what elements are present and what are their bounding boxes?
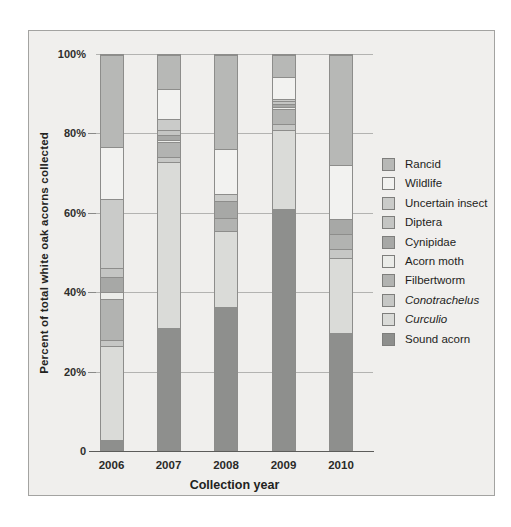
x-tick-label-2008: 2008: [198, 459, 254, 471]
plot-area: [96, 54, 373, 451]
legend-item-acorn-moth: Acorn moth: [382, 255, 487, 268]
legend-item-diptera: Diptera: [382, 216, 487, 229]
bar-2006: [100, 54, 124, 451]
y-tick-label-100: 100%: [29, 47, 86, 61]
bar-2009-segment-curculio: [273, 130, 295, 209]
bar-2010-segment-rancid: [330, 55, 352, 165]
y-tick-label-40: 40%: [29, 285, 86, 299]
x-tick-label-2009: 2009: [256, 459, 312, 471]
y-axis-title: Percent of total white oak acorns collec…: [38, 132, 50, 374]
legend-item-filbertworm: Filbertworm: [382, 274, 487, 287]
bar-2008-segment-cynipidae: [215, 201, 237, 218]
bar-2006-segment-filbertworm: [101, 299, 123, 340]
x-tick-label-2010: 2010: [313, 459, 369, 471]
legend-swatch-wildlife: [382, 177, 395, 190]
y-tick-20: [88, 372, 96, 373]
bar-2009-segment-sound-acorn: [273, 209, 295, 450]
y-tick-40: [88, 292, 96, 293]
x-tick-label-2006: 2006: [84, 459, 140, 471]
legend-item-conotrachelus: Conotrachelus: [382, 294, 487, 307]
bar-2006-segment-curculio: [101, 346, 123, 440]
bar-2010-segment-filbertworm: [330, 234, 352, 249]
bar-2010: [329, 54, 353, 451]
legend-item-uncertain-insect: Uncertain insect: [382, 197, 487, 210]
bar-2008-segment-sound-acorn: [215, 307, 237, 450]
bar-2008-segment-wildlife: [215, 149, 237, 194]
bar-2006-segment-acorn-moth: [101, 292, 123, 299]
bar-2006-segment-rancid: [101, 55, 123, 147]
bar-2010-segment-cynipidae: [330, 219, 352, 234]
bar-2008-segment-curculio: [215, 231, 237, 306]
y-tick-60: [88, 213, 96, 214]
chart-frame: Percent of total white oak acorns collec…: [28, 30, 495, 496]
legend-swatch-conotrachelus: [382, 294, 395, 307]
legend-item-sound-acorn: Sound acorn: [382, 333, 487, 346]
bar-2007-segment-curculio: [158, 162, 180, 328]
legend-swatch-uncertain-insect: [382, 197, 395, 210]
bar-2006-segment-diptera: [101, 268, 123, 277]
y-tick-label-80: 80%: [29, 126, 86, 140]
legend-label-cynipidae: Cynipidae: [405, 236, 456, 249]
legend-label-wildlife: Wildlife: [405, 177, 442, 190]
legend-swatch-filbertworm: [382, 274, 395, 287]
bar-2007-segment-filbertworm: [158, 142, 180, 157]
bar-2006-segment-sound-acorn: [101, 440, 123, 450]
bar-2009-segment-wildlife: [273, 77, 295, 98]
bar-2010-segment-wildlife: [330, 165, 352, 220]
bar-2007: [157, 54, 181, 451]
legend-label-sound-acorn: Sound acorn: [405, 333, 470, 346]
legend-swatch-rancid: [382, 158, 395, 171]
bar-2006-segment-wildlife: [101, 147, 123, 199]
legend-swatch-cynipidae: [382, 236, 395, 249]
bar-2007-segment-rancid: [158, 55, 180, 89]
x-tick-label-2007: 2007: [141, 459, 197, 471]
legend-swatch-diptera: [382, 216, 395, 229]
legend-label-rancid: Rancid: [405, 158, 441, 171]
figure-canvas: Percent of total white oak acorns collec…: [0, 0, 511, 527]
legend-label-acorn-moth: Acorn moth: [405, 255, 464, 268]
x-axis-line: [89, 451, 374, 452]
legend-swatch-curculio: [382, 313, 395, 326]
y-axis-title-wrap: Percent of total white oak acorns collec…: [35, 54, 53, 451]
x-axis-title: Collection year: [96, 478, 373, 492]
legend-label-curculio: Curculio: [405, 313, 447, 326]
bar-2009-segment-filbertworm: [273, 109, 295, 124]
legend-item-wildlife: Wildlife: [382, 177, 487, 190]
bar-2009: [272, 54, 296, 451]
bar-2007-segment-wildlife: [158, 89, 180, 119]
bar-2010-segment-conotrachelus: [330, 249, 352, 257]
y-tick-80: [88, 133, 96, 134]
legend-item-curculio: Curculio: [382, 313, 487, 326]
bar-2010-segment-sound-acorn: [330, 333, 352, 450]
legend-item-cynipidae: Cynipidae: [382, 236, 487, 249]
legend-label-diptera: Diptera: [405, 216, 442, 229]
bar-2009-segment-rancid: [273, 55, 295, 77]
legend-label-filbertworm: Filbertworm: [405, 274, 465, 287]
y-tick-label-60: 60%: [29, 206, 86, 220]
bar-2008-segment-filbertworm: [215, 218, 237, 231]
y-tick-label-0: 0: [29, 444, 86, 458]
bar-2008: [214, 54, 238, 451]
legend-swatch-acorn-moth: [382, 255, 395, 268]
legend-label-conotrachelus: Conotrachelus: [405, 294, 479, 307]
bar-2008-segment-rancid: [215, 55, 237, 149]
bar-2006-segment-cynipidae: [101, 277, 123, 292]
bar-2007-segment-sound-acorn: [158, 328, 180, 450]
bar-2008-segment-uncertain-insect: [215, 194, 237, 201]
bar-2010-segment-curculio: [330, 258, 352, 334]
bar-2006-segment-uncertain-insect: [101, 199, 123, 268]
legend-item-rancid: Rancid: [382, 158, 487, 171]
y-tick-label-20: 20%: [29, 365, 86, 379]
legend-swatch-sound-acorn: [382, 333, 395, 346]
legend: RancidWildlifeUncertain insectDipteraCyn…: [382, 158, 487, 352]
bar-2007-segment-uncertain-insect: [158, 119, 180, 130]
legend-label-uncertain-insect: Uncertain insect: [405, 197, 487, 210]
